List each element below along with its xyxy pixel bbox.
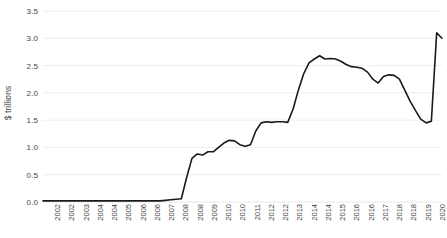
x-axis-tick-labels: 2002200220032004200420052006200620072008… <box>43 204 442 238</box>
x-tick-label: 2018 <box>395 204 404 221</box>
x-tick-label: 2016 <box>352 204 361 221</box>
x-tick-label: 2014 <box>324 204 333 221</box>
x-tick-label: 2009 <box>210 204 219 221</box>
y-tick-label: 0.0 <box>27 198 38 207</box>
x-tick-label: 2014 <box>310 204 319 221</box>
x-tick-label: 2003 <box>82 204 91 221</box>
y-tick-label: 3.5 <box>27 7 38 16</box>
gridlines <box>43 11 442 202</box>
x-tick-label: 2007 <box>167 204 176 221</box>
x-tick-label: 2006 <box>139 204 148 221</box>
y-tick-label: 2.5 <box>27 61 38 70</box>
x-tick-label: 2010 <box>238 204 247 221</box>
x-tick-label: 2004 <box>110 204 119 221</box>
y-tick-label: 0.5 <box>27 170 38 179</box>
x-tick-label: 2004 <box>96 204 105 221</box>
x-tick-label: 2020 <box>438 204 447 221</box>
x-tick-label: 2005 <box>124 204 133 221</box>
y-axis-tick-labels: 0.00.51.01.52.02.53.03.5 <box>16 0 40 205</box>
x-tick-label: 2015 <box>338 204 347 221</box>
plot-svg <box>43 11 442 202</box>
x-tick-label: 2006 <box>153 204 162 221</box>
x-tick-label: 2016 <box>367 204 376 221</box>
x-tick-label: 2012 <box>267 204 276 221</box>
x-tick-label: 2017 <box>381 204 390 221</box>
y-tick-label: 2.0 <box>27 88 38 97</box>
x-tick-label: 2002 <box>67 204 76 221</box>
x-tick-label: 2010 <box>224 204 233 221</box>
x-tick-label: 2011 <box>253 204 262 220</box>
y-tick-label: 1.0 <box>27 143 38 152</box>
plot-wrapper: 0.00.51.01.52.02.53.03.5 200220022003200… <box>16 0 443 238</box>
y-tick-label: 1.5 <box>27 116 38 125</box>
x-tick-label: 2013 <box>295 204 304 221</box>
data-series-line <box>43 33 442 201</box>
x-tick-label: 2019 <box>424 204 433 221</box>
plot-area <box>43 11 442 202</box>
x-tick-label: 2008 <box>196 204 205 221</box>
y-tick-label: 3.0 <box>27 34 38 43</box>
x-tick-label: 2018 <box>409 204 418 221</box>
y-axis-title-text: $ trillions <box>3 85 13 120</box>
x-tick-label: 2008 <box>181 204 190 221</box>
x-tick-label: 2012 <box>281 204 290 221</box>
x-tick-label: 2002 <box>53 204 62 221</box>
y-axis-title: $ trillions <box>0 0 16 205</box>
